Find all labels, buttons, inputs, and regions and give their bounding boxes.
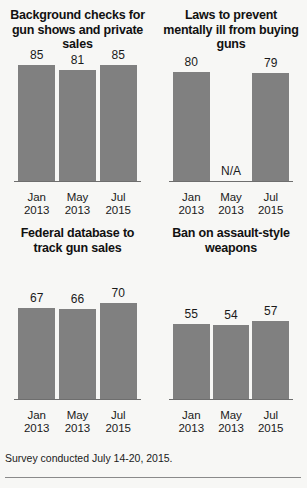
bar-value-label: 54 <box>224 309 237 322</box>
plot-area: 80 N/A 79 <box>155 44 307 182</box>
x-tick-month: Jul <box>100 409 137 422</box>
x-tick: Jan 2013 <box>18 409 55 434</box>
bar-slot: 67 <box>18 262 55 400</box>
x-axis-tick-labels: Jan 2013 May 2013 Jul 2015 <box>18 191 137 216</box>
bar-group: 80 N/A 79 <box>173 44 289 182</box>
x-tick-month: May <box>59 409 96 422</box>
chart-panel-background-checks: Background checks for gun shows and priv… <box>0 0 155 218</box>
x-tick: May 2013 <box>213 409 250 434</box>
survey-footnote: Survey conducted July 14-20, 2015. <box>5 452 173 465</box>
footer-divider <box>5 477 301 478</box>
bar-rect <box>100 303 137 400</box>
bar-slot: 81 <box>59 44 96 182</box>
bar-value-label: 55 <box>185 308 198 321</box>
bar-group: 55 54 57 <box>173 262 289 400</box>
bar-rect <box>252 73 289 182</box>
bar-value-label: 80 <box>185 56 198 69</box>
x-tick-year: 2015 <box>252 204 289 217</box>
bar-value-label: 81 <box>71 54 84 67</box>
bar-value-label: 70 <box>112 287 125 300</box>
bar-value-label: 85 <box>30 49 43 62</box>
x-tick-month: Jul <box>100 191 137 204</box>
bar-value-label: 67 <box>30 292 43 305</box>
bar-value-label: 66 <box>71 293 84 306</box>
bar-slot-na: N/A <box>213 44 250 182</box>
bar-slot: 70 <box>100 262 137 400</box>
axis-baseline <box>169 181 293 182</box>
x-tick-year: 2013 <box>59 422 96 435</box>
chart-panel-mentally-ill-laws: Laws to prevent mentally ill from buying… <box>155 0 307 218</box>
bar-slot: 85 <box>100 44 137 182</box>
x-tick-month: May <box>213 191 250 204</box>
bar-rect <box>59 309 96 400</box>
bar-rect <box>100 65 137 182</box>
x-tick-year: 2013 <box>18 422 55 435</box>
bar-slot: 66 <box>59 262 96 400</box>
charts-grid: Background checks for gun shows and priv… <box>0 0 307 436</box>
x-tick: Jan 2013 <box>173 191 210 216</box>
x-tick-year: 2013 <box>59 204 96 217</box>
bar-slot: 55 <box>173 262 210 400</box>
x-tick-year: 2015 <box>100 422 137 435</box>
axis-baseline <box>169 399 293 400</box>
x-tick-year: 2013 <box>18 204 55 217</box>
bar-rect <box>173 72 210 182</box>
chart-panel-assault-weapons-ban: Ban on assault-style weapons 55 54 57 <box>155 218 307 436</box>
bar-rect <box>18 308 55 400</box>
x-tick: Jul 2015 <box>100 191 137 216</box>
bar-rect <box>213 325 250 400</box>
bar-slot: 54 <box>213 262 250 400</box>
axis-baseline <box>14 181 141 182</box>
bar-value-label: 57 <box>264 305 277 318</box>
x-tick-year: 2013 <box>213 204 250 217</box>
bar-rect <box>173 324 210 400</box>
x-axis-tick-labels: Jan 2013 May 2013 Jul 2015 <box>173 409 289 434</box>
bar-value-label: 79 <box>264 57 277 70</box>
x-tick-year: 2013 <box>213 422 250 435</box>
bar-group: 67 66 70 <box>18 262 137 400</box>
x-tick-month: May <box>213 409 250 422</box>
axis-baseline <box>14 399 141 400</box>
bar-slot: 79 <box>252 44 289 182</box>
x-axis-tick-labels: Jan 2013 May 2013 Jul 2015 <box>173 191 289 216</box>
x-tick-year: 2013 <box>173 422 210 435</box>
chart-panel-federal-database: Federal database to track gun sales 67 6… <box>0 218 155 436</box>
x-tick: Jan 2013 <box>173 409 210 434</box>
x-tick: May 2013 <box>59 191 96 216</box>
bar-value-label-na: N/A <box>221 164 241 178</box>
x-tick-year: 2013 <box>173 204 210 217</box>
chart-title: Federal database to track gun sales <box>0 218 155 255</box>
x-tick-month: Jan <box>173 191 210 204</box>
x-tick: May 2013 <box>213 191 250 216</box>
x-tick-year: 2015 <box>252 422 289 435</box>
bar-value-label: 85 <box>112 49 125 62</box>
x-tick: Jul 2015 <box>100 409 137 434</box>
x-tick: May 2013 <box>59 409 96 434</box>
x-tick-month: Jul <box>252 409 289 422</box>
x-tick-month: Jan <box>18 409 55 422</box>
bar-group: 85 81 85 <box>18 44 137 182</box>
survey-chart-figure: Background checks for gun shows and priv… <box>0 0 307 488</box>
x-tick: Jan 2013 <box>18 191 55 216</box>
chart-title: Ban on assault-style weapons <box>155 218 307 255</box>
bar-slot: 57 <box>252 262 289 400</box>
plot-area: 67 66 70 <box>0 262 155 400</box>
x-tick-month: Jul <box>252 191 289 204</box>
x-tick-month: May <box>59 191 96 204</box>
x-tick-year: 2015 <box>100 204 137 217</box>
x-tick-month: Jan <box>18 191 55 204</box>
x-tick: Jul 2015 <box>252 191 289 216</box>
bar-slot: 85 <box>18 44 55 182</box>
bar-rect <box>59 70 96 182</box>
bar-slot: 80 <box>173 44 210 182</box>
bar-rect <box>252 321 289 400</box>
bar-rect <box>18 65 55 182</box>
x-tick-month: Jan <box>173 409 210 422</box>
plot-area: 55 54 57 <box>155 262 307 400</box>
plot-area: 85 81 85 <box>0 44 155 182</box>
x-axis-tick-labels: Jan 2013 May 2013 Jul 2015 <box>18 409 137 434</box>
x-tick: Jul 2015 <box>252 409 289 434</box>
